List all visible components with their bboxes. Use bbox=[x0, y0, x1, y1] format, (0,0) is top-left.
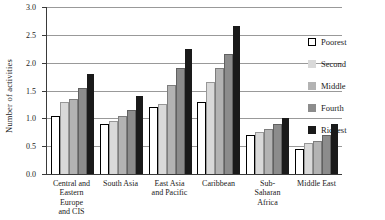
legend-swatch-poorest bbox=[308, 38, 316, 46]
category-label: Middle East bbox=[295, 179, 338, 217]
legend-item-middle: Middle bbox=[308, 81, 347, 91]
category-label-line: and CIS bbox=[50, 207, 93, 216]
bar-poorest bbox=[51, 116, 60, 174]
legend-item-poorest: Poorest bbox=[308, 37, 347, 47]
category-label: South Asia bbox=[99, 179, 142, 217]
plot-area bbox=[46, 7, 342, 174]
bar-richest bbox=[136, 96, 143, 174]
category-label: Caribbean bbox=[197, 179, 240, 217]
y-tick-label: 2.0 bbox=[26, 58, 36, 67]
bar-fourth bbox=[127, 110, 136, 174]
legend-item-richest: Richest bbox=[308, 125, 347, 135]
bar-richest bbox=[87, 74, 94, 174]
bar-richest bbox=[282, 118, 289, 174]
category-label-line: Sub- bbox=[246, 179, 289, 188]
bar-middle bbox=[118, 116, 127, 174]
bar-middle bbox=[313, 141, 322, 174]
y-tick-label: 1.0 bbox=[26, 114, 36, 123]
bar-poorest bbox=[246, 135, 255, 174]
bar-group bbox=[197, 7, 240, 174]
bar-second bbox=[109, 121, 118, 174]
bar-group bbox=[246, 7, 289, 174]
category-label: Central andEastern Europeand CIS bbox=[50, 179, 93, 217]
bar-middle bbox=[69, 99, 78, 174]
bar-group bbox=[51, 7, 94, 174]
bar-middle bbox=[264, 129, 273, 174]
legend: PoorestSecondMiddleFourthRichest bbox=[308, 37, 347, 135]
bar-middle bbox=[215, 68, 224, 174]
category-label-line: East Asia bbox=[148, 179, 191, 188]
legend-label: Richest bbox=[321, 125, 347, 135]
legend-label: Poorest bbox=[321, 37, 347, 47]
legend-swatch-second bbox=[308, 60, 316, 68]
bar-richest bbox=[233, 26, 240, 174]
y-tick-label: 2.5 bbox=[26, 30, 36, 39]
category-label-line: Caribbean bbox=[197, 179, 240, 188]
category-label: East Asiaand Pacific bbox=[148, 179, 191, 217]
bar-second bbox=[255, 132, 264, 174]
bar-second bbox=[60, 102, 69, 174]
bar-groups bbox=[47, 7, 342, 174]
y-tick-label: 0.0 bbox=[26, 170, 36, 179]
bar-poorest bbox=[295, 149, 304, 174]
bar-fourth bbox=[78, 88, 87, 174]
bar-group bbox=[100, 7, 143, 174]
bar-poorest bbox=[149, 107, 158, 174]
legend-swatch-fourth bbox=[308, 104, 316, 112]
legend-item-fourth: Fourth bbox=[308, 103, 347, 113]
category-label: Sub-SaharanAfrica bbox=[246, 179, 289, 217]
legend-swatch-richest bbox=[308, 126, 316, 134]
bar-second bbox=[206, 82, 215, 174]
bar-fourth bbox=[322, 135, 331, 174]
legend-label: Fourth bbox=[321, 103, 344, 113]
category-label-line: South Asia bbox=[99, 179, 142, 188]
bar-group bbox=[149, 7, 192, 174]
bar-chart-figure: Number of activities 0.00.51.01.52.02.53… bbox=[0, 0, 385, 220]
bar-poorest bbox=[197, 102, 206, 174]
category-label-line: Saharan bbox=[246, 188, 289, 197]
legend-item-second: Second bbox=[308, 59, 347, 69]
bar-poorest bbox=[100, 124, 109, 174]
category-label-line: and Pacific bbox=[148, 188, 191, 197]
category-labels: Central andEastern Europeand CISSouth As… bbox=[46, 179, 342, 217]
legend-swatch-middle bbox=[308, 82, 316, 90]
bar-middle bbox=[167, 85, 176, 174]
category-label-line: Middle East bbox=[295, 179, 338, 188]
y-tick-label: 1.5 bbox=[26, 86, 36, 95]
y-tick-label: 3.0 bbox=[26, 3, 36, 12]
legend-label: Middle bbox=[321, 81, 346, 91]
category-label-line: Africa bbox=[246, 198, 289, 207]
bar-richest bbox=[185, 49, 192, 174]
bar-fourth bbox=[224, 54, 233, 174]
category-label-line: Central and bbox=[50, 179, 93, 188]
bar-fourth bbox=[176, 68, 185, 174]
y-axis-tick bbox=[42, 174, 47, 175]
bar-second bbox=[304, 143, 313, 174]
bar-second bbox=[158, 104, 167, 174]
legend-label: Second bbox=[321, 59, 346, 69]
category-label-line: Eastern Europe bbox=[50, 188, 93, 207]
y-tick-label: 0.5 bbox=[26, 142, 36, 151]
bar-fourth bbox=[273, 124, 282, 174]
gridline-0.0 bbox=[47, 174, 342, 175]
y-axis-tick-labels: 0.00.51.01.52.02.53.0 bbox=[0, 7, 40, 174]
